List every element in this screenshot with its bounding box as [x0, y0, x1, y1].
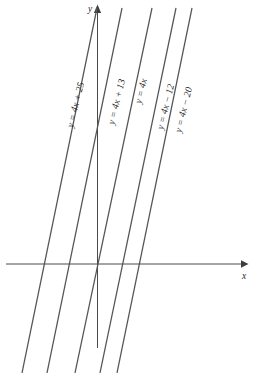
graph-line-5 — [117, 8, 192, 373]
y-axis-label: y — [87, 4, 93, 14]
line-label-5: y = 4x − 20 — [172, 86, 194, 135]
line-label-2: y = 4x + 13 — [105, 78, 127, 127]
line-label-4: y = 4x − 12 — [154, 83, 176, 132]
x-axis-label: x — [241, 271, 247, 281]
coordinate-plane-svg: y x y = 4x + 25 y = 4x + 13 y = 4x y = 4… — [0, 0, 253, 373]
plotted-lines — [22, 8, 192, 373]
line-label-1: y = 4x + 25 — [64, 81, 86, 130]
line-graph-figure: y x y = 4x + 25 y = 4x + 13 y = 4x y = 4… — [0, 0, 253, 373]
graph-line-3 — [75, 8, 152, 373]
graph-line-4 — [100, 8, 176, 373]
x-axis — [6, 260, 249, 268]
y-axis — [94, 5, 101, 349]
graph-line-1 — [22, 8, 97, 373]
line-label-3: y = 4x — [132, 77, 149, 106]
graph-line-2 — [47, 8, 122, 373]
x-axis-arrow-icon — [241, 260, 249, 268]
y-axis-arrow-icon — [94, 5, 101, 14]
